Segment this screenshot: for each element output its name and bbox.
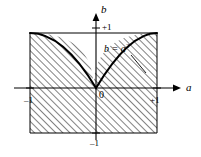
origin-label: 0: [99, 90, 104, 100]
x-axis-tick-label-minus-one: –1: [24, 96, 33, 105]
vertical-axis-label: b: [101, 4, 107, 15]
y-axis-tick-label-plus-one: +1: [102, 23, 112, 32]
horizontal-axis-label: a: [186, 82, 192, 93]
x-axis-tick-label-plus-one: +1: [150, 96, 160, 105]
figure-canvas: [0, 0, 201, 157]
y-axis-tick-label-minus-one: –1: [90, 139, 99, 148]
parabola-equation-exponent: 2: [126, 42, 130, 50]
parabola-equation-label: b = a2: [104, 43, 129, 54]
parabola-region-figure: b a +1 –1 +1 –1 0 b = a2: [0, 0, 201, 157]
parabola-equation-base: b = a: [104, 43, 126, 54]
